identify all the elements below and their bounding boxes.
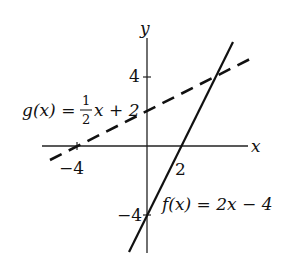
svg-text:1: 1 xyxy=(82,93,90,108)
svg-text:g(x) =: g(x) = xyxy=(22,100,75,120)
graph: x y −4 2 4 −4 g(x) = 1 2 x + 2 f(x) = 2x… xyxy=(0,0,282,264)
tick-label-y-4: 4 xyxy=(129,66,140,86)
tick-label-x-neg4: −4 xyxy=(59,158,84,178)
tick-label-x-2: 2 xyxy=(175,159,186,179)
line-f xyxy=(129,42,233,252)
f-function-label: f(x) = 2x − 4 xyxy=(160,194,272,214)
x-axis-label: x xyxy=(251,136,261,156)
svg-text:2: 2 xyxy=(82,112,90,127)
svg-text:x + 2: x + 2 xyxy=(94,100,139,120)
g-function-label: g(x) = 1 2 x + 2 xyxy=(22,93,139,127)
tick-label-y-neg4: −4 xyxy=(117,205,142,225)
y-axis-label: y xyxy=(139,18,150,38)
